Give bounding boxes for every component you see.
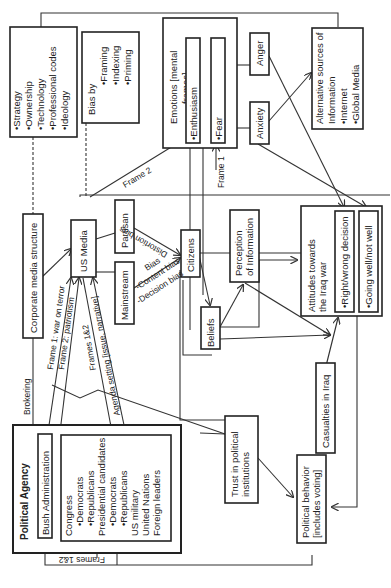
anxiety-label: Anxiety [254, 108, 265, 139]
strategy-item: •Ownership [23, 81, 34, 130]
svg-text:Perception: Perception [233, 231, 244, 276]
svg-text:•Democrats: •Democrats [74, 476, 85, 526]
svg-text:•Republicans: •Republicans [118, 470, 129, 526]
svg-text:Emotions [mental: Emotions [mental [168, 51, 179, 124]
enthusiasm-label: •Enthusiasm [188, 87, 199, 140]
strategy-item: •Professional codes [47, 46, 58, 130]
frames12-bottom-label: Frames 1&2 [58, 555, 105, 565]
beliefs-attitudes-arrow [220, 335, 330, 339]
corporate-media-label: Corporate media structure [28, 223, 39, 333]
svg-text:•Internet: •Internet [338, 88, 349, 124]
bias-item: •Framing [98, 47, 109, 85]
beliefs-label: Beliefs [205, 318, 216, 347]
strategy-item: •Technology [35, 78, 46, 130]
bias-by-title: Bias by [86, 84, 97, 115]
anxiety-attitude-arrow [258, 144, 366, 207]
trust-behavior-arrow [258, 458, 293, 497]
frame1-label: Frame 1 [216, 156, 226, 188]
svg-text:•Global Media: •Global Media [350, 64, 361, 124]
corporate-media-arrow [41, 249, 71, 278]
svg-text:the Iraq war: the Iraq war [317, 262, 328, 312]
going-well-label: •Going well/not well [363, 225, 374, 308]
svg-text:Attitudes towards: Attitudes towards [306, 239, 317, 312]
anxiety-alt-arrow [269, 73, 311, 121]
anger-label: Anger [254, 41, 265, 66]
svg-text:•Republicans: •Republicans [85, 470, 96, 526]
brokering-label: Brokering [22, 378, 32, 415]
mainstream-label: Mainstream [119, 270, 130, 320]
casualties-label: Casualties in Iraq [320, 375, 331, 448]
svg-text:Alternative sources of: Alternative sources of [314, 32, 325, 124]
svg-text:•Democrats: •Democrats [107, 476, 118, 526]
strategy-item: •Ideology [59, 91, 70, 130]
beliefs-perception-arrow [220, 285, 243, 327]
svg-text:Congress: Congress [63, 495, 74, 536]
svg-text:Presidential candidates: Presidential candidates [96, 438, 107, 536]
svg-text:institutions: institutions [240, 452, 251, 497]
bias-item: •Priming [122, 49, 133, 85]
svg-text:Political behavior: Political behavior [300, 466, 311, 538]
bias-item: •Indexing [110, 46, 121, 85]
right-wrong-label: •Right/wrong decision [339, 216, 350, 308]
svg-text:US military: US military [129, 490, 140, 536]
political-agency-title: Political Agency [19, 463, 30, 540]
diagram-canvas: •Strategy •Ownership •Technology •Profes… [0, 0, 391, 588]
fear-label: •Fear [213, 117, 224, 140]
svg-text:Information: Information [326, 76, 337, 124]
citizens-label: Citizens [185, 238, 196, 272]
us-media-label: US Media [78, 230, 89, 272]
bush-admin-label: Bush Administration [40, 451, 51, 535]
svg-text:Trust in political: Trust in political [229, 431, 240, 497]
political-behavior-content: Political behavior [includes voting] [300, 466, 322, 538]
svg-text:United Nations: United Nations [140, 473, 151, 536]
media-partisan-link [96, 233, 115, 239]
svg-text:[includes voting]: [includes voting] [311, 470, 322, 538]
media-top-line [80, 195, 390, 197]
svg-text:Foreign leaders: Foreign leaders [151, 470, 162, 536]
svg-text:of Information: of Information [244, 218, 255, 276]
strategy-item: •Strategy [11, 91, 22, 130]
